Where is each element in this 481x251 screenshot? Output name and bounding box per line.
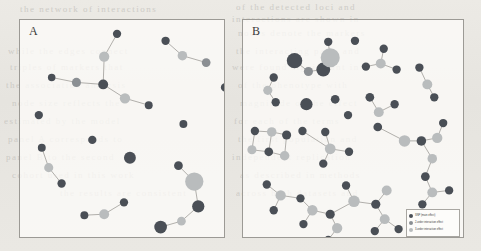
network-node-snp [300, 98, 312, 110]
network-node-order2 [304, 67, 313, 76]
network-node-snp [282, 130, 291, 139]
legend-row-order3: 3-order interaction effect [409, 227, 457, 233]
network-node-snp [445, 186, 453, 194]
network-node-snp [251, 127, 259, 135]
network-node-order3 [99, 209, 109, 219]
network-node-snp [418, 200, 426, 208]
network-node-snp [296, 194, 304, 202]
network-node-snp [319, 160, 327, 168]
network-node-order2 [202, 58, 211, 67]
network-node-order3 [321, 48, 340, 67]
network-node-snp [371, 200, 380, 209]
network-node-order3 [432, 133, 442, 143]
network-node-snp [221, 83, 224, 91]
network-node-order3 [177, 217, 186, 226]
network-node-snp [287, 53, 302, 68]
network-node-snp [48, 74, 56, 82]
network-node-order3 [247, 145, 256, 154]
network-node-snp [179, 120, 187, 128]
panel-b: B SNP (main effect) 2-order interaction … [242, 19, 464, 238]
network-node-snp [421, 172, 430, 181]
network-node-snp [331, 95, 340, 104]
network-node-snp [326, 210, 335, 219]
legend-label-snp: SNP (main effect) [415, 215, 435, 218]
legend-label-order3: 3-order interaction effect [415, 229, 443, 232]
network-node-order3 [120, 93, 130, 103]
network-node-order3 [307, 205, 317, 215]
network-node-snp [192, 200, 204, 212]
network-node-snp [264, 147, 273, 156]
network-node-snp [417, 136, 427, 146]
network-node-snp [145, 101, 153, 109]
legend-dot-order3 [409, 228, 413, 232]
network-node-order3 [280, 151, 290, 161]
network-node-snp [430, 93, 438, 101]
network-node-order3 [399, 135, 410, 146]
network-node-snp [439, 119, 447, 127]
network-node-order3 [348, 196, 359, 207]
network-node-snp [80, 211, 88, 219]
network-node-order3 [44, 163, 53, 172]
network-node-snp [35, 111, 43, 119]
panel-b-network [243, 20, 463, 237]
network-node-snp [324, 38, 332, 46]
network-node-snp [371, 227, 379, 235]
network-node-order3 [185, 172, 203, 190]
network-node-order2 [72, 78, 81, 87]
legend-row-snp: SNP (main effect) [409, 213, 457, 219]
network-node-order3 [427, 187, 437, 197]
network-node-snp [373, 123, 382, 132]
figure-network-panels: A B SNP (main effect) 2-order interactio… [0, 0, 481, 251]
legend: SNP (main effect) 2-order interaction ef… [406, 209, 460, 237]
panel-a: A [19, 19, 225, 238]
network-node-snp [321, 128, 329, 136]
network-node-snp [88, 136, 96, 144]
network-node-snp [270, 73, 278, 81]
network-node-order3 [374, 107, 384, 117]
network-node-snp [57, 179, 65, 187]
network-node-snp [298, 127, 306, 135]
network-node-order3 [422, 79, 432, 89]
network-node-order3 [267, 127, 277, 137]
network-node-snp [124, 152, 136, 164]
network-node-order3 [178, 51, 188, 61]
network-node-snp [174, 161, 183, 170]
network-node-snp [263, 180, 271, 188]
network-node-order3 [325, 143, 336, 154]
network-node-snp [380, 45, 388, 53]
network-node-snp [351, 37, 359, 45]
network-node-snp [270, 206, 278, 214]
network-node-snp [113, 30, 121, 38]
panel-a-network [20, 20, 224, 237]
network-node-order3 [99, 52, 109, 62]
network-node-snp [394, 225, 402, 233]
network-node-order3 [428, 154, 438, 164]
network-node-snp [362, 62, 370, 70]
network-node-order3 [276, 190, 286, 200]
network-node-order3 [376, 59, 386, 69]
legend-dot-order2 [409, 221, 413, 225]
network-node-snp [272, 98, 280, 106]
legend-dot-snp [409, 214, 413, 218]
network-node-snp [154, 221, 167, 234]
legend-label-order2: 2-order interaction effect [415, 222, 443, 225]
network-node-snp [38, 144, 46, 152]
network-node-order3 [382, 185, 392, 195]
network-node-snp [365, 93, 374, 102]
network-node-snp [98, 79, 108, 89]
network-node-snp [392, 65, 400, 73]
network-node-order3 [332, 223, 342, 233]
network-node-snp [344, 111, 352, 119]
network-node-snp [345, 148, 353, 156]
network-node-snp [390, 100, 398, 108]
network-node-snp [161, 37, 169, 45]
network-node-snp [120, 198, 128, 206]
network-node-snp [299, 220, 307, 228]
network-node-snp [342, 181, 350, 189]
network-node-order3 [263, 86, 272, 95]
network-node-order3 [380, 214, 390, 224]
legend-row-order2: 2-order interaction effect [409, 220, 457, 226]
network-node-snp [415, 63, 423, 71]
